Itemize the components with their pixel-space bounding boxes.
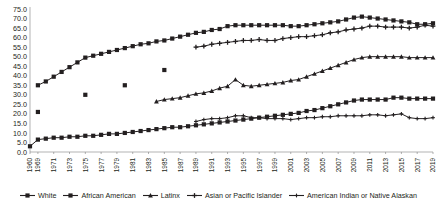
data-point-square bbox=[91, 134, 95, 138]
x-tick-label-group: 2011 bbox=[366, 158, 373, 172]
legend-item-african-american[interactable]: African American bbox=[62, 191, 135, 200]
x-tick-label-group: 2007 bbox=[335, 158, 342, 173]
y-tick-label: 65.0 bbox=[13, 24, 27, 33]
data-point-square bbox=[383, 97, 387, 101]
x-tick-label: 2013 bbox=[382, 158, 389, 173]
legend-item-asian-or-pacific-islander[interactable]: Asian or Pacific Islander bbox=[186, 191, 282, 200]
data-point-square bbox=[139, 129, 143, 133]
data-point-square bbox=[368, 97, 372, 101]
data-point-square bbox=[431, 97, 435, 101]
data-point-square bbox=[218, 120, 222, 124]
x-tick-label: 2009 bbox=[350, 158, 357, 173]
legend-label: White bbox=[38, 191, 56, 200]
data-point-square bbox=[186, 124, 190, 128]
x-tick-label: 1991 bbox=[208, 158, 215, 173]
data-point-square bbox=[312, 108, 316, 112]
y-tick-label: 75.0 bbox=[13, 5, 27, 14]
data-point-square bbox=[123, 131, 127, 135]
data-point-diamond bbox=[376, 16, 380, 20]
x-tick-label-group: 2001 bbox=[287, 158, 294, 173]
x-tick-label: 2019 bbox=[429, 158, 436, 173]
data-point-square bbox=[60, 136, 64, 140]
legend-label: African American bbox=[81, 191, 135, 200]
y-tick-label: 25.0 bbox=[13, 100, 27, 109]
data-point-square bbox=[194, 123, 198, 127]
data-point-square bbox=[304, 109, 308, 113]
legend-marker-square-icon bbox=[62, 191, 79, 200]
data-point-diamond bbox=[360, 15, 364, 19]
legend-item-latinx[interactable]: Latinx bbox=[142, 191, 180, 200]
data-point-square bbox=[69, 193, 73, 197]
data-point-diamond bbox=[162, 38, 166, 42]
data-point-diamond bbox=[312, 22, 316, 26]
x-tick-label: 2003 bbox=[303, 158, 310, 173]
data-point-square bbox=[352, 98, 356, 102]
y-tick-label: 0.0 bbox=[17, 148, 27, 157]
legend-marker-triangle-icon bbox=[142, 191, 159, 200]
legend-label: Asian or Pacific Islander bbox=[205, 191, 282, 200]
line-chart: 0.05.010.015.020.025.030.035.040.045.050… bbox=[0, 0, 436, 201]
data-point-square bbox=[376, 97, 380, 101]
data-point-diamond bbox=[249, 23, 253, 27]
x-tick-label-group: 2005 bbox=[319, 158, 326, 173]
data-point-diamond bbox=[336, 19, 340, 23]
legend-item-white[interactable]: White bbox=[19, 191, 56, 200]
x-tick-label: 1987 bbox=[177, 158, 184, 173]
data-point-square bbox=[162, 126, 166, 130]
x-tick-label-group: 1979 bbox=[113, 158, 120, 173]
x-tick-label: 1985 bbox=[161, 158, 168, 173]
x-tick-label-group: 1969 bbox=[34, 158, 41, 173]
data-point-diamond bbox=[91, 54, 95, 58]
data-point-diamond bbox=[281, 23, 285, 27]
x-tick-label-group: 2019 bbox=[429, 158, 436, 173]
x-tick-label-group: 1971 bbox=[50, 158, 57, 173]
x-tick-label-group: 1985 bbox=[161, 158, 168, 173]
data-point-diamond bbox=[297, 24, 301, 28]
data-point-square bbox=[28, 144, 32, 148]
x-tick-label: 1969 bbox=[34, 158, 41, 173]
x-tick-label-group: 1973 bbox=[66, 158, 73, 173]
data-point-diamond bbox=[123, 46, 127, 50]
x-tick-label: 1983 bbox=[145, 158, 152, 173]
data-point-diamond bbox=[44, 79, 48, 83]
x-tick-label: 1993 bbox=[224, 158, 231, 173]
y-tick-label: 30.0 bbox=[13, 90, 27, 99]
x-tick-label: 2015 bbox=[398, 158, 405, 173]
chart-legend: WhiteAfrican AmericanLatinxAsian or Paci… bbox=[0, 191, 436, 200]
data-point-square bbox=[320, 106, 324, 110]
data-point-diamond bbox=[241, 23, 245, 27]
x-tick-label: 1977 bbox=[98, 158, 105, 173]
data-point-square bbox=[67, 135, 71, 139]
series-white bbox=[36, 15, 435, 88]
x-tick-label-group: 1983 bbox=[145, 158, 152, 173]
x-tick-label: 1973 bbox=[66, 158, 73, 173]
y-tick-label: 55.0 bbox=[13, 43, 27, 52]
data-point-square bbox=[344, 100, 348, 104]
data-point-diamond bbox=[186, 33, 190, 37]
x-tick-label-group: 1991 bbox=[208, 158, 215, 173]
data-point-diamond bbox=[225, 24, 229, 28]
legend-item-american-indian-or-native-alaskan[interactable]: American Indian or Native Alaskan bbox=[288, 191, 417, 200]
data-point-diamond bbox=[273, 23, 277, 27]
data-point-diamond bbox=[146, 41, 150, 45]
x-tick-label: 1975 bbox=[82, 158, 89, 173]
x-tick-label-group: 1995 bbox=[240, 158, 247, 173]
data-point-square bbox=[360, 97, 364, 101]
series-american-indian-or-native-alaskan bbox=[194, 112, 435, 123]
data-point-square bbox=[99, 133, 103, 137]
series-line bbox=[156, 57, 433, 102]
data-point-square bbox=[178, 125, 182, 129]
x-tick-label: 1971 bbox=[50, 158, 57, 173]
data-point-square bbox=[391, 96, 395, 100]
data-point-square bbox=[44, 137, 48, 141]
x-tick-label-group: 2013 bbox=[382, 158, 389, 173]
x-tick-label: 1995 bbox=[240, 158, 247, 173]
data-point-square bbox=[170, 125, 174, 129]
data-point-square bbox=[131, 130, 135, 134]
data-point-diamond bbox=[75, 60, 79, 64]
y-tick-label: 35.0 bbox=[13, 81, 27, 90]
series-african-american bbox=[28, 68, 435, 148]
x-tick-label: 2001 bbox=[287, 158, 294, 173]
x-tick-label-group: 1999 bbox=[271, 158, 278, 173]
x-tick-label: 2017 bbox=[414, 158, 421, 173]
